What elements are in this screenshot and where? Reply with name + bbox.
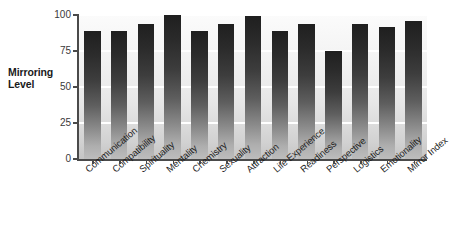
bar	[379, 27, 396, 159]
y-tick-label: 100	[45, 9, 71, 20]
y-tick-mark	[73, 86, 77, 88]
y-axis-line	[77, 14, 79, 160]
x-tick-mark	[253, 160, 255, 164]
bar	[272, 31, 289, 159]
plot-area	[79, 15, 427, 159]
bar	[164, 15, 181, 159]
y-tick-label: 75	[45, 45, 71, 56]
y-tick-label: 25	[45, 117, 71, 128]
x-tick-mark	[333, 160, 335, 164]
y-tick-label: 0	[45, 153, 71, 164]
bar	[84, 31, 101, 159]
x-tick-mark	[307, 160, 309, 164]
x-tick-mark	[226, 160, 228, 164]
y-tick-mark	[73, 50, 77, 52]
y-tick-mark	[73, 158, 77, 160]
y-tick-mark	[73, 122, 77, 124]
x-tick-mark	[280, 160, 282, 164]
bar	[405, 21, 422, 159]
bar	[138, 24, 155, 159]
x-tick-mark	[146, 160, 148, 164]
y-tick-label: 50	[45, 81, 71, 92]
x-tick-mark	[199, 160, 201, 164]
bar	[325, 51, 342, 159]
y-tick-mark	[73, 14, 77, 16]
bar	[111, 31, 128, 159]
x-tick-mark	[387, 160, 389, 164]
x-tick-mark	[119, 160, 121, 164]
x-tick-mark	[173, 160, 175, 164]
x-tick-mark	[360, 160, 362, 164]
bar	[245, 16, 262, 159]
x-axis-line	[77, 159, 427, 161]
y-axis-ticks: 0255075100	[40, 0, 71, 230]
x-tick-mark	[92, 160, 94, 164]
x-tick-mark	[414, 160, 416, 164]
bar	[191, 31, 208, 159]
bar	[352, 24, 369, 159]
bar	[298, 24, 315, 159]
bar	[218, 24, 235, 159]
